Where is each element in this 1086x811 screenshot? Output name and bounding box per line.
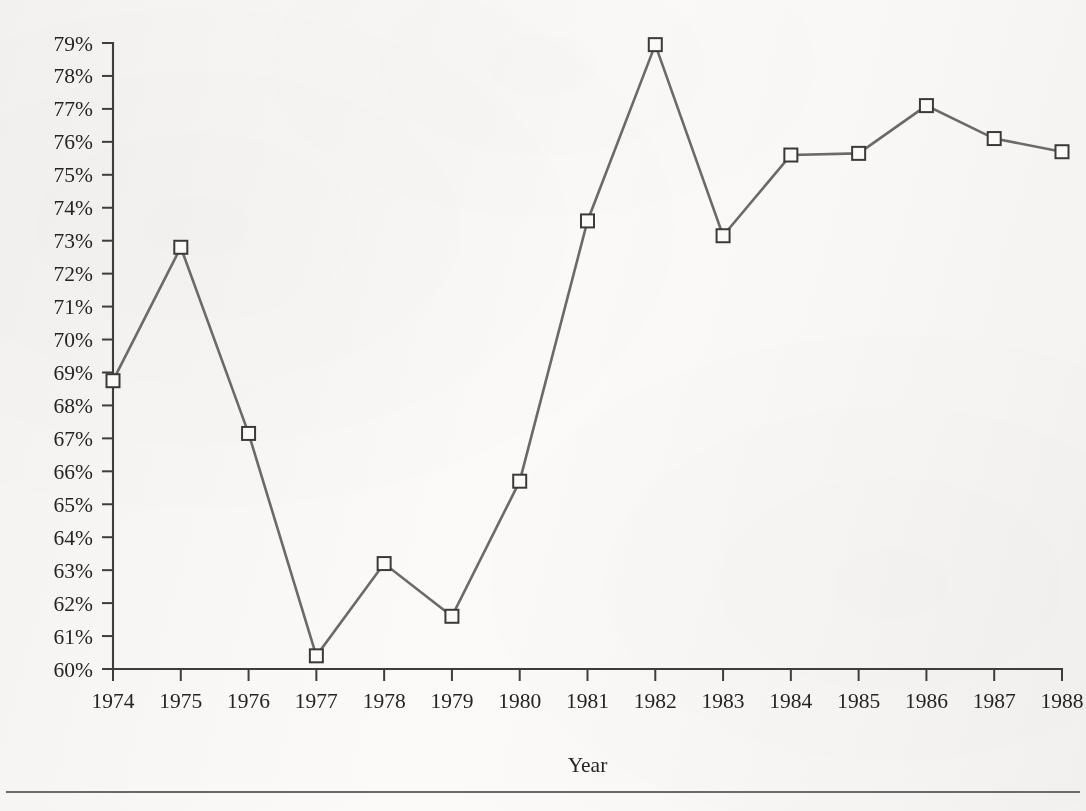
data-point-marker — [107, 374, 120, 387]
x-tick-label: 1979 — [430, 689, 473, 713]
chart-plot-area: 60%61%62%63%64%65%66%67%68%69%70%71%72%7… — [0, 0, 1086, 811]
x-tick-label: 1985 — [837, 689, 880, 713]
y-tick-label: 65% — [54, 493, 94, 517]
y-tick-label: 75% — [54, 163, 94, 187]
x-tick-label: 1974 — [92, 689, 135, 713]
y-tick-label: 70% — [54, 328, 94, 352]
data-point-marker — [174, 241, 187, 254]
y-tick-label: 63% — [54, 559, 94, 583]
x-tick-label: 1987 — [973, 689, 1016, 713]
y-tick-label: 60% — [54, 658, 94, 682]
data-point-marker — [717, 229, 730, 242]
x-tick-label: 1984 — [769, 689, 812, 713]
data-point-marker-group — [107, 38, 1069, 662]
y-axis-tick-group: 60%61%62%63%64%65%66%67%68%69%70%71%72%7… — [54, 32, 113, 682]
y-tick-label: 68% — [54, 394, 94, 418]
x-tick-label: 1978 — [363, 689, 406, 713]
x-tick-label: 1982 — [634, 689, 677, 713]
y-tick-label: 61% — [54, 625, 94, 649]
data-point-marker — [784, 149, 797, 162]
data-series-line — [113, 45, 1062, 656]
data-point-marker — [581, 214, 594, 227]
y-tick-label: 74% — [54, 196, 94, 220]
data-point-marker — [378, 557, 391, 570]
data-point-marker — [988, 132, 1001, 145]
x-tick-label: 1977 — [295, 689, 338, 713]
y-tick-label: 64% — [54, 526, 94, 550]
y-tick-label: 62% — [54, 592, 94, 616]
y-tick-label: 67% — [54, 427, 94, 451]
x-axis-tick-group: 1974197519761977197819791980198119821983… — [92, 669, 1084, 713]
y-tick-label: 79% — [54, 32, 94, 56]
data-point-marker — [513, 475, 526, 488]
line-chart-figure: 60%61%62%63%64%65%66%67%68%69%70%71%72%7… — [0, 0, 1086, 811]
x-tick-label: 1980 — [498, 689, 541, 713]
data-point-marker — [445, 610, 458, 623]
x-tick-label: 1986 — [905, 689, 948, 713]
data-point-marker — [1056, 145, 1069, 158]
x-tick-label: 1988 — [1041, 689, 1084, 713]
y-tick-label: 72% — [54, 262, 94, 286]
x-axis-title: Year — [568, 753, 608, 777]
y-tick-label: 71% — [54, 295, 94, 319]
y-tick-label: 77% — [54, 97, 94, 121]
x-tick-label: 1981 — [566, 689, 609, 713]
y-tick-label: 76% — [54, 130, 94, 154]
data-point-marker — [649, 38, 662, 51]
data-point-marker — [310, 649, 323, 662]
y-tick-label: 69% — [54, 361, 94, 385]
x-tick-label: 1983 — [702, 689, 745, 713]
x-tick-label: 1975 — [159, 689, 202, 713]
data-point-marker — [852, 147, 865, 160]
y-tick-label: 78% — [54, 64, 94, 88]
y-tick-label: 66% — [54, 460, 94, 484]
data-point-marker — [920, 99, 933, 112]
x-tick-label: 1976 — [227, 689, 270, 713]
y-tick-label: 73% — [54, 229, 94, 253]
data-point-marker — [242, 427, 255, 440]
page-footer-rule — [6, 791, 1080, 793]
